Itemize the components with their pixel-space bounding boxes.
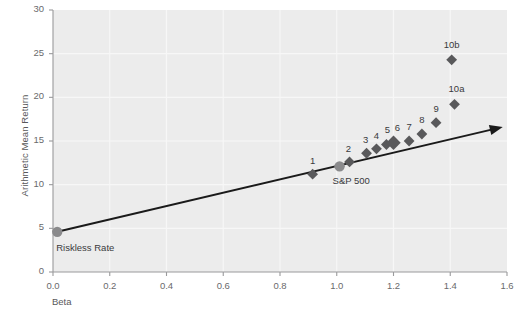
x-tick-label-0.6: 0.6 — [203, 280, 243, 291]
special-point-label-riskless-rate: Riskless Rate — [56, 242, 114, 253]
data-point-label-10b: 10b — [438, 39, 466, 50]
x-tick-label-1.2: 1.2 — [374, 280, 414, 291]
data-point-label-9: 9 — [422, 103, 450, 114]
chart-container: Arithmetic Mean Return Beta 12345678910a… — [0, 0, 514, 317]
special-point-marker-sp500 — [334, 161, 344, 171]
x-axis-title: Beta — [52, 296, 72, 307]
x-tick-label-1.6: 1.6 — [487, 280, 514, 291]
y-tick-label-20: 20 — [10, 90, 44, 101]
y-tick-label-0: 0 — [10, 265, 44, 276]
y-tick-label-15: 15 — [10, 134, 44, 145]
special-point-marker-riskless-rate — [52, 227, 62, 237]
x-tick-label-0.0: 0.0 — [33, 280, 73, 291]
y-tick-label-25: 25 — [10, 47, 44, 58]
data-point-label-8: 8 — [408, 114, 436, 125]
x-tick-label-1.0: 1.0 — [317, 280, 357, 291]
special-point-label-sp500: S&P 500 — [333, 175, 370, 186]
x-tick-label-0.2: 0.2 — [90, 280, 130, 291]
data-point-label-1: 1 — [299, 155, 327, 166]
y-tick-label-5: 5 — [10, 221, 44, 232]
x-tick-label-1.4: 1.4 — [430, 280, 470, 291]
x-tick-label-0.4: 0.4 — [147, 280, 187, 291]
data-point-label-10a: 10a — [443, 83, 471, 94]
y-tick-label-10: 10 — [10, 178, 44, 189]
y-tick-label-30: 30 — [10, 3, 44, 14]
x-tick-label-0.8: 0.8 — [260, 280, 300, 291]
